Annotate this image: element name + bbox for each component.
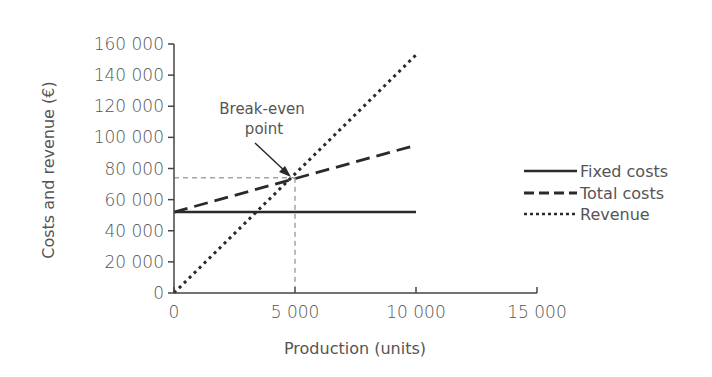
break-even-label-line2: point: [245, 120, 283, 138]
y-tick-label: 0: [153, 283, 164, 303]
y-tick-label: 100 000: [94, 127, 164, 147]
y-axis-ticks: 020 00040 00060 00080 000100 000120 0001…: [94, 34, 174, 303]
x-tick-label: 5 000: [271, 302, 320, 322]
break-even-arrow-icon: [255, 143, 291, 177]
y-tick-label: 120 000: [94, 96, 164, 116]
legend-fixed-label: Fixed costs: [580, 162, 668, 181]
revenue-line: [174, 55, 416, 293]
y-tick-label: 60 000: [105, 190, 164, 210]
y-tick-label: 140 000: [94, 65, 164, 85]
y-tick-label: 20 000: [105, 252, 164, 272]
break-even-chart: 020 00040 00060 00080 000100 000120 0001…: [0, 0, 712, 377]
legend: Fixed costs Total costs Revenue: [524, 162, 668, 224]
x-tick-label: 10 000: [386, 302, 445, 322]
x-axis-title: Production (units): [284, 339, 426, 358]
y-tick-label: 80 000: [105, 159, 164, 179]
y-axis-title: Costs and revenue (€): [39, 81, 58, 258]
legend-revenue-label: Revenue: [580, 205, 650, 224]
legend-total-label: Total costs: [579, 184, 664, 203]
x-tick-label: 15 000: [507, 302, 566, 322]
x-tick-label: 0: [169, 302, 180, 322]
y-tick-label: 160 000: [94, 34, 164, 54]
break-even-label-line1: Break-even: [219, 100, 305, 118]
y-tick-label: 40 000: [105, 221, 164, 241]
